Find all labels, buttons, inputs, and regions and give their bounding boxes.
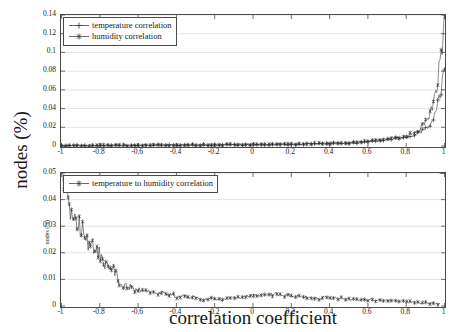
x-tick-label: 0.4 bbox=[315, 307, 343, 316]
legend-label: temperature to humidity correlation bbox=[90, 178, 213, 189]
x-tick-label: 0.8 bbox=[391, 147, 419, 156]
x-tick-label: -0.4 bbox=[161, 307, 189, 316]
x-tick-label: -0.6 bbox=[123, 307, 151, 316]
y-tick-label: 0.04 bbox=[28, 194, 56, 203]
x-tick-label: -1 bbox=[47, 307, 75, 316]
x-tick-label: 1 bbox=[430, 307, 458, 316]
legend-item: temperature correlation bbox=[68, 20, 172, 31]
y-tick-label: 0.06 bbox=[28, 84, 56, 93]
asterisk-marker bbox=[68, 31, 90, 42]
x-tick-label: -0.2 bbox=[200, 307, 228, 316]
y-tick-label: 0.08 bbox=[28, 65, 56, 74]
figure-root: nodes (%) nodes (%) correlation coeffici… bbox=[0, 0, 470, 332]
legend-label: temperature correlation bbox=[90, 20, 172, 31]
y-tick-label: 0.12 bbox=[28, 28, 56, 37]
x-tick-label: 0 bbox=[238, 147, 266, 156]
x-tick-label: 1 bbox=[430, 147, 458, 156]
y-tick-label: 0.14 bbox=[28, 9, 56, 18]
legend-bottom: temperature to humidity correlation bbox=[63, 175, 218, 193]
x-tick-label: 0.6 bbox=[353, 147, 381, 156]
x-tick-label: 0 bbox=[238, 307, 266, 316]
x-tick-label: 0.2 bbox=[276, 147, 304, 156]
x-tick-label: -0.8 bbox=[85, 307, 113, 316]
plus-marker bbox=[68, 20, 90, 31]
x-tick-label: 0.4 bbox=[315, 147, 343, 156]
x-tick-label: 0.2 bbox=[276, 307, 304, 316]
x-tick-label: -1 bbox=[47, 147, 75, 156]
x-tick-label: -0.8 bbox=[85, 147, 113, 156]
legend-item: humidity correlation bbox=[68, 31, 172, 42]
x-tick-label: 0.8 bbox=[391, 307, 419, 316]
y-tick-label: 0.1 bbox=[28, 46, 56, 55]
y-tick-label: 0.01 bbox=[28, 273, 56, 282]
legend-top: temperature correlationhumidity correlat… bbox=[63, 17, 177, 46]
x-tick-label: -0.4 bbox=[161, 147, 189, 156]
y-tick-label: 0.02 bbox=[28, 121, 56, 130]
y-tick-label: 0.05 bbox=[28, 167, 56, 176]
x-tick-label: 0.6 bbox=[353, 307, 381, 316]
y-tick-label: 0.02 bbox=[28, 247, 56, 256]
y-tick-label: 0.04 bbox=[28, 103, 56, 112]
x-tick-label: -0.6 bbox=[123, 147, 151, 156]
y-tick-label: 0.03 bbox=[28, 220, 56, 229]
legend-label: humidity correlation bbox=[90, 31, 162, 42]
x-tick-label: -0.2 bbox=[200, 147, 228, 156]
asterisk-marker bbox=[68, 178, 90, 189]
legend-item: temperature to humidity correlation bbox=[68, 178, 213, 189]
